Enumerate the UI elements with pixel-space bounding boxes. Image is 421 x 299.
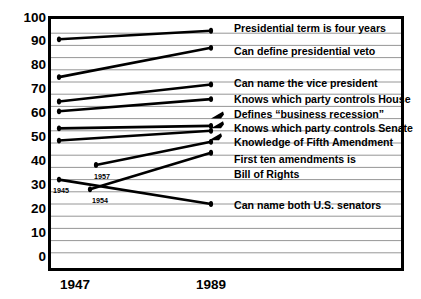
y-axis-tick-labels: 100 90 80 70 60 50 40 30 20 10 0 bbox=[8, 0, 46, 299]
series-line bbox=[59, 84, 211, 101]
y-tick-30: 30 bbox=[12, 178, 46, 192]
series-label-fifth-amendment: Knowledge of Fifth Amendment bbox=[234, 136, 393, 149]
y-tick-20: 20 bbox=[12, 202, 46, 216]
y-tick-90: 90 bbox=[12, 34, 46, 48]
series-line bbox=[59, 131, 211, 141]
data-point-marker bbox=[209, 96, 213, 102]
data-point-marker bbox=[57, 74, 61, 80]
annotation-1957: 1957 bbox=[94, 172, 110, 181]
series-line bbox=[59, 31, 211, 40]
data-point-marker bbox=[209, 28, 213, 34]
callout-arrow-icon bbox=[211, 111, 224, 118]
series-label-party-senate: Knows which party controls Senate bbox=[234, 122, 413, 135]
callout-arrow-icon bbox=[209, 133, 222, 140]
series-line bbox=[59, 99, 211, 111]
y-tick-100: 100 bbox=[12, 11, 46, 25]
y-tick-0: 0 bbox=[12, 250, 46, 264]
data-point-marker bbox=[88, 186, 92, 192]
y-tick-50: 50 bbox=[12, 130, 46, 144]
callout-arrow-icon bbox=[211, 121, 224, 128]
y-tick-60: 60 bbox=[12, 106, 46, 120]
series-label-bill-of-rights-line2: Bill of Rights bbox=[234, 168, 299, 181]
y-tick-70: 70 bbox=[12, 82, 46, 96]
data-point-marker bbox=[57, 99, 61, 105]
x-tick-1989: 1989 bbox=[196, 277, 226, 292]
series-line bbox=[96, 142, 211, 165]
data-point-marker bbox=[57, 177, 61, 183]
plot-frame: 1945 1957 1954 Presidential term is four… bbox=[48, 16, 404, 271]
annotation-1954: 1954 bbox=[92, 196, 108, 205]
series-label-business-recession: Defines “business recession” bbox=[234, 108, 384, 121]
y-tick-10: 10 bbox=[12, 226, 46, 240]
data-point-marker bbox=[209, 128, 213, 134]
series-label-presidential-veto: Can define presidential veto bbox=[234, 45, 375, 58]
data-point-marker bbox=[57, 138, 61, 144]
data-point-marker bbox=[209, 45, 213, 51]
series-label-us-senators: Can name both U.S. senators bbox=[234, 199, 381, 212]
annotation-1945: 1945 bbox=[53, 186, 69, 195]
data-point-marker bbox=[209, 150, 213, 156]
data-point-marker bbox=[57, 125, 61, 131]
series-label-bill-of-rights-line1: First ten amendments is bbox=[234, 153, 356, 166]
data-point-marker bbox=[94, 162, 98, 168]
x-tick-1947: 1947 bbox=[60, 277, 90, 292]
data-point-marker bbox=[209, 82, 213, 88]
chart-root: Percentage Correct 100 90 80 70 60 50 40… bbox=[0, 0, 421, 299]
series-label-vice-president: Can name the vice president bbox=[234, 77, 378, 90]
data-point-marker bbox=[57, 108, 61, 114]
data-point-marker bbox=[57, 36, 61, 42]
series-line bbox=[59, 126, 211, 128]
series-label-presidential-term: Presidential term is four years bbox=[234, 22, 386, 35]
series-line bbox=[59, 48, 211, 77]
series-label-party-house: Knows which party controls House bbox=[234, 93, 411, 106]
y-tick-80: 80 bbox=[12, 58, 46, 72]
y-tick-40: 40 bbox=[12, 154, 46, 168]
data-point-marker bbox=[209, 201, 213, 207]
